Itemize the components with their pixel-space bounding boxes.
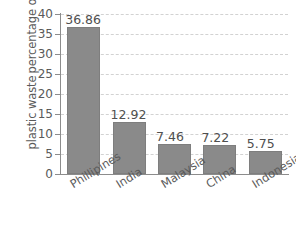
y-axis-tick-mark (55, 134, 61, 135)
bar-value-label: 5.75 (247, 137, 275, 150)
y-axis-tick-label: 15 (33, 108, 53, 120)
bar (67, 27, 100, 174)
y-axis-tick-mark (55, 34, 61, 35)
bar-value-label: 7.46 (156, 130, 184, 143)
bar (113, 122, 146, 174)
y-axis-tick-label: 5 (33, 148, 53, 160)
y-axis-tick-label: 40 (33, 8, 53, 20)
bar-value-label: 12.92 (111, 108, 147, 121)
y-axis-tick-label: 35 (33, 28, 53, 40)
y-axis-tick-mark (55, 114, 61, 115)
y-axis-tick-mark (55, 14, 61, 15)
y-axis-tick-mark (55, 74, 61, 75)
bar-chart: percentage of global plastic waste 40353… (0, 0, 296, 234)
bar-value-label: 7.22 (201, 131, 229, 144)
y-axis-tick-mark (55, 154, 61, 155)
bar-value-label: 36.86 (65, 13, 101, 26)
y-axis-tick-mark (55, 54, 61, 55)
y-axis-tick-label: 0 (33, 168, 53, 180)
y-axis-tick-mark (55, 94, 61, 95)
y-axis-tick-mark (55, 174, 61, 175)
y-axis-tick-label: 10 (33, 128, 53, 140)
y-axis-tick-labels: 4035302520151050 (15, 0, 53, 234)
y-axis-tick-label: 20 (33, 88, 53, 100)
y-axis-tick-label: 25 (33, 68, 53, 80)
y-axis-tick-label: 30 (33, 48, 53, 60)
